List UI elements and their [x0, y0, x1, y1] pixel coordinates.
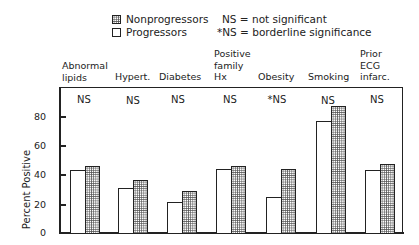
sig-label: NS: [118, 95, 148, 107]
y-axis: [59, 87, 61, 234]
bar-nonprogressors-2: [182, 191, 198, 233]
category-label-smoking: Smoking: [308, 71, 349, 83]
category-label-obesity: Obesity: [258, 71, 294, 83]
bar-nonprogressors-6: [380, 164, 396, 233]
tick-20: [60, 204, 66, 206]
tick-40: [60, 174, 66, 176]
bar-progressors-5: [316, 121, 332, 233]
tick-label-80: 80: [26, 111, 46, 122]
sig-label: NS: [362, 94, 392, 106]
bar-nonprogressors-0: [85, 166, 101, 233]
bar-progressors-6: [365, 170, 381, 233]
category-label-diabetes: Diabetes: [159, 71, 201, 83]
category-label-positive-family-hx: Positive family Hx: [214, 48, 251, 83]
category-label-abnormal-lipids: Abnormal lipids: [62, 60, 108, 83]
legend-swatch-nonprogressors: [112, 15, 121, 24]
category-label-prior-ecg-infarc: Prior ECG infarc.: [360, 48, 390, 83]
bar-progressors-4: [266, 197, 282, 234]
sig-label: *NS: [262, 94, 292, 106]
bar-nonprogressors-3: [231, 166, 247, 233]
bar-nonprogressors-1: [133, 180, 149, 233]
sig-label: NS: [163, 94, 193, 106]
legend-label-nonprogressors: Nonprogressors: [126, 13, 208, 25]
bar-nonprogressors-4: [281, 169, 297, 233]
legend-note-borderline: *NS = borderline significance: [217, 26, 372, 38]
tick-60: [60, 145, 66, 147]
bar-progressors-0: [70, 170, 86, 233]
bar-progressors-3: [216, 169, 232, 233]
legend-swatch-progressors: [112, 28, 121, 37]
legend-note-ns: NS = not significant: [222, 13, 327, 25]
legend-label-progressors: Progressors: [126, 26, 187, 38]
sig-label: NS: [69, 94, 99, 106]
sig-label: NS: [215, 94, 245, 106]
y-axis-label: Percent Positive: [21, 150, 32, 230]
bar-progressors-1: [118, 188, 134, 233]
bar-progressors-2: [167, 202, 183, 233]
category-label-hypert: Hypert.: [115, 71, 150, 83]
tick-80: [60, 116, 66, 118]
bar-nonprogressors-5: [331, 106, 347, 233]
